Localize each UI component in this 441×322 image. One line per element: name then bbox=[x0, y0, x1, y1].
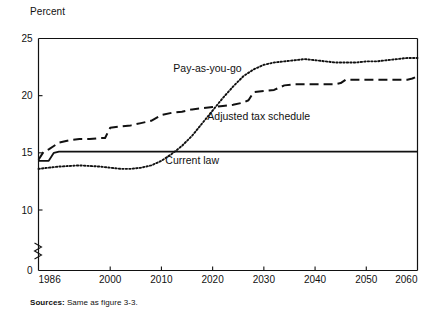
figure-container: Percent 010152025 1986200020102020203020… bbox=[0, 0, 441, 322]
y-tick-label: 20 bbox=[21, 90, 33, 101]
y-tick-label: 15 bbox=[21, 147, 33, 158]
series-label-dashed: Adjusted tax schedule bbox=[207, 110, 310, 122]
source-text: Same as figure 3-3. bbox=[67, 298, 138, 307]
x-axis-ticks: 19862000201020202030204020502060 bbox=[39, 267, 418, 285]
series-line-solid bbox=[39, 152, 418, 161]
chart-series-labels: Current lawAdjusted tax schedulePay-as-y… bbox=[165, 62, 310, 167]
x-tick-label: 2050 bbox=[355, 274, 378, 285]
source-note: Sources: Same as figure 3-3. bbox=[30, 298, 138, 308]
x-tick-label: 2020 bbox=[202, 274, 225, 285]
y-axis-ticks: 010152025 bbox=[21, 33, 42, 276]
x-tick-label: 2000 bbox=[99, 274, 122, 285]
x-tick-label: 2040 bbox=[304, 274, 327, 285]
x-tick-label: 2010 bbox=[150, 274, 173, 285]
series-label-solid: Current law bbox=[165, 154, 219, 166]
x-tick-label: 2030 bbox=[253, 274, 276, 285]
x-tick-label: 1986 bbox=[39, 274, 62, 285]
source-label: Sources: bbox=[30, 298, 65, 307]
line-chart: 010152025 198620002010202020302040205020… bbox=[0, 0, 441, 322]
x-tick-label: 2060 bbox=[395, 274, 418, 285]
series-label-dotted: Pay-as-you-go bbox=[173, 62, 241, 74]
y-tick-label: 0 bbox=[27, 265, 33, 276]
y-tick-label: 10 bbox=[21, 205, 33, 216]
y-tick-label: 25 bbox=[21, 33, 33, 44]
